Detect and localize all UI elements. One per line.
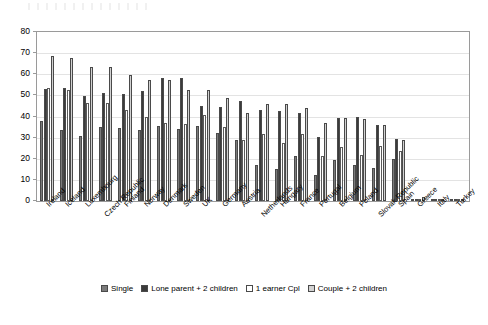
legend-label: Single [111,284,133,293]
y-axis-tick-mark [33,73,36,74]
x-axis-labels: IrelandIcelandLuxembourgCzech RepublicFi… [37,203,469,265]
y-axis-tick-label: 0 [8,196,30,205]
bar-group [330,32,350,201]
legend-label: Couple + 2 children [318,284,387,293]
legend-swatch-icon [246,285,253,292]
bar-group [57,32,77,201]
bar-group [272,32,292,201]
bar-group [291,32,311,201]
y-axis-tick-mark [33,52,36,53]
y-axis-tick-label: 80 [8,27,30,36]
bar [266,104,269,201]
y-axis-tick-mark [33,200,36,201]
y-axis-tick-label: 70 [8,48,30,57]
legend-swatch-icon [308,285,315,292]
bar [207,90,210,201]
y-axis-tick-label: 50 [8,90,30,99]
plot-wrapper: 80706050403020100 IrelandIcelandLuxembou… [0,0,488,270]
chart-legend: SingleLone parent + 2 children1 earner C… [0,284,488,293]
bar-group [213,32,233,201]
bar-group [252,32,272,201]
y-axis-tick-label: 30 [8,133,30,142]
bar-group [447,32,467,201]
bar-groups [37,32,469,201]
legend-item[interactable]: Lone parent + 2 children [141,284,238,293]
bar-group [76,32,96,201]
bar-group [115,32,135,201]
bar [187,90,190,201]
y-axis-tick-mark [33,116,36,117]
y-axis-tick-label: 10 [8,175,30,184]
bar [70,58,73,201]
legend-item[interactable]: Couple + 2 children [308,284,387,293]
bar-chart: 80706050403020100 IrelandIcelandLuxembou… [0,0,488,325]
bar-group [193,32,213,201]
bar-group [174,32,194,201]
legend-swatch-icon [141,285,148,292]
bar [344,118,347,201]
bar-group [232,32,252,201]
legend-label: Lone parent + 2 children [151,284,238,293]
bar [305,108,308,201]
legend-swatch-icon [101,285,108,292]
bar-group [428,32,448,201]
legend-label: 1 earner Cpl [256,284,300,293]
legend-item[interactable]: Single [101,284,133,293]
bar-group [37,32,57,201]
bar [363,119,366,201]
bar-group [369,32,389,201]
y-axis-tick-mark [33,179,36,180]
bar [90,67,93,201]
bar [324,123,327,201]
y-axis-tick-mark [33,158,36,159]
bar [148,80,151,201]
y-axis-tick-label: 20 [8,154,30,163]
y-axis-tick-label: 60 [8,69,30,78]
y-axis-tick-mark [33,31,36,32]
legend-item[interactable]: 1 earner Cpl [246,284,300,293]
bar [226,98,229,202]
bar [168,80,171,201]
bar-group [311,32,331,201]
y-axis-tick-mark [33,94,36,95]
bar-group [350,32,370,201]
bar [383,125,386,201]
y-axis-tick-label: 40 [8,112,30,121]
bar-group [389,32,409,201]
bar [51,56,54,201]
bar-group [154,32,174,201]
y-axis-tick-mark [33,137,36,138]
